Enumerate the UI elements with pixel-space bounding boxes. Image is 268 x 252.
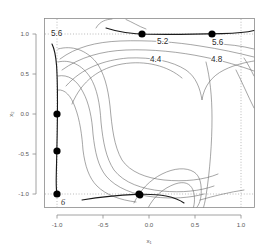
y-tick-label: 0.5 xyxy=(20,70,29,77)
contour-path xyxy=(126,20,146,30)
marker-point xyxy=(138,30,145,37)
x-axis: -1.0 -0.5 0.0 0.5 1.0 x₁ xyxy=(52,215,246,244)
marker-point xyxy=(53,147,60,154)
contour-path xyxy=(96,19,112,28)
boundary-path-left xyxy=(52,44,57,194)
contour-label-4-4: 4.4 xyxy=(150,55,162,64)
contour-path xyxy=(58,48,218,181)
contour-path xyxy=(148,183,195,209)
contour-lines xyxy=(58,19,254,210)
plot-canvas: 5.6 5.2 5.6 4.4 4.8 6 -1.0 -0.5 0.0 0.5 … xyxy=(0,0,268,252)
x-axis-title: x₁ xyxy=(146,237,151,244)
contour-label-4-8: 4.8 xyxy=(211,55,223,64)
contour-label-5-6-left: 5.6 xyxy=(51,29,63,38)
contour-path xyxy=(58,90,136,202)
contour-label-5-2: 5.2 xyxy=(157,37,169,46)
y-tick-label: 1.0 xyxy=(20,30,29,37)
reference-lines xyxy=(45,19,254,207)
x-tick-label: 0.0 xyxy=(145,221,154,228)
contour-path xyxy=(236,70,254,108)
y-tick-label: 0.0 xyxy=(20,110,29,117)
y-tick-label: -1.0 xyxy=(18,190,29,197)
contour-path xyxy=(244,58,254,76)
contour-plot-figure: 5.6 5.2 5.6 4.4 4.8 6 -1.0 -0.5 0.0 0.5 … xyxy=(0,0,268,252)
marker-point xyxy=(53,110,60,117)
contour-label-6: 6 xyxy=(61,198,66,207)
contour-path xyxy=(58,76,204,198)
contour-path xyxy=(72,63,182,104)
y-tick-label: -0.5 xyxy=(18,150,29,157)
y-axis-title: x₂ xyxy=(7,111,14,117)
x-tick-label: -1.0 xyxy=(52,221,63,228)
x-tick-label: 1.0 xyxy=(237,221,246,228)
marker-point xyxy=(208,30,215,37)
marker-point xyxy=(137,192,144,199)
x-tick-label: -0.5 xyxy=(98,221,109,228)
boundary-path-top xyxy=(106,28,254,34)
marker-point xyxy=(53,190,60,197)
y-axis: 1.0 0.5 0.0 -0.5 -1.0 x₂ xyxy=(7,30,36,197)
contour-path xyxy=(134,169,201,210)
contour-label-5-6-right: 5.6 xyxy=(212,38,224,47)
x-tick-label: 0.5 xyxy=(191,221,200,228)
contour-path xyxy=(66,58,254,100)
